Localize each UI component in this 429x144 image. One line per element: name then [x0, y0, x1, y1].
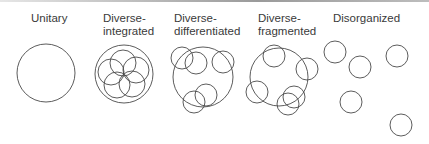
diagram-unitary — [17, 44, 75, 102]
circle-shape — [386, 45, 408, 67]
circle-shape — [195, 84, 217, 106]
circle-shape — [185, 52, 207, 74]
circle-shape — [17, 44, 75, 102]
diagram-diverse-differentiated — [171, 47, 234, 113]
circle-diagrams — [0, 0, 429, 144]
diagram-diverse-integrated — [95, 45, 153, 103]
diagram-diverse-fragmented — [246, 45, 318, 115]
circle-shape — [246, 81, 268, 103]
circle-shape — [173, 47, 233, 107]
circle-shape — [340, 91, 362, 113]
circle-shape — [349, 56, 371, 78]
circle-shape — [283, 86, 305, 108]
circle-shape — [277, 93, 299, 115]
circle-shape — [119, 71, 145, 97]
diagram-disorganized — [324, 41, 412, 136]
circle-shape — [390, 114, 412, 136]
circle-shape — [324, 41, 346, 63]
circle-shape — [171, 47, 193, 69]
